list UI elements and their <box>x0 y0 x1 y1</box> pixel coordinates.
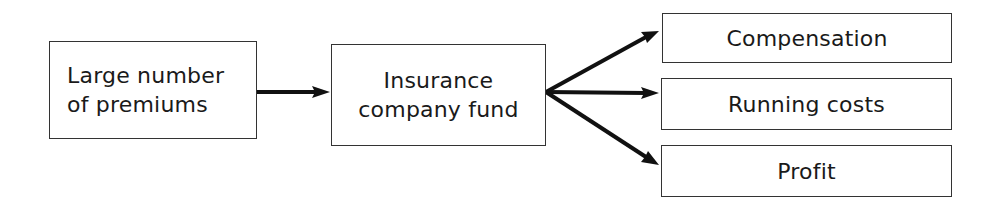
arrowhead-icon <box>641 151 659 165</box>
arrow-fund-to-running-costs <box>546 92 646 93</box>
compensation-label: Compensation <box>726 24 887 53</box>
compensation-box: Compensation <box>662 13 952 63</box>
insurance-fund-box: Insurance company fund <box>331 44 546 146</box>
insurance-fund-label: Insurance company fund <box>358 66 518 124</box>
profit-box: Profit <box>661 145 952 197</box>
premiums-label: Large number of premiums <box>67 61 224 119</box>
profit-label: Profit <box>777 157 836 186</box>
running-costs-box: Running costs <box>661 78 952 130</box>
running-costs-label: Running costs <box>728 90 885 119</box>
arrow-fund-to-compensation <box>546 37 646 92</box>
premiums-box: Large number of premiums <box>49 41 257 139</box>
arrow-fund-to-profit <box>546 92 646 157</box>
